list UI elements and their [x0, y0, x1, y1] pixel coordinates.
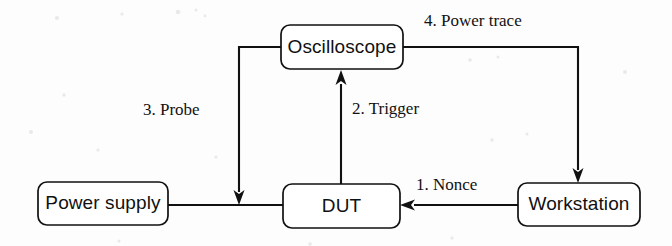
setup-diagram: Oscilloscope Power supply DUT Workstatio…	[0, 0, 672, 246]
edge-label-trigger: 2. Trigger	[352, 99, 419, 118]
edge-power-trace	[403, 47, 584, 183]
node-oscilloscope[interactable]: Oscilloscope	[281, 25, 403, 69]
arrowhead-probe	[234, 190, 245, 205]
workstation-label: Workstation	[528, 193, 629, 214]
edge-probe	[234, 47, 282, 205]
node-power-supply[interactable]: Power supply	[38, 182, 168, 225]
arrowhead-nonce	[400, 200, 415, 211]
node-dut[interactable]: DUT	[283, 184, 400, 228]
power-supply-label: Power supply	[45, 192, 161, 213]
oscilloscope-label: Oscilloscope	[288, 36, 397, 57]
edge-nonce	[400, 200, 518, 211]
edge-trigger	[336, 70, 347, 184]
dut-label: DUT	[322, 195, 362, 216]
arrowhead-power-trace	[573, 168, 584, 183]
edge-label-power-trace: 4. Power trace	[424, 11, 522, 30]
edge-label-nonce: 1. Nonce	[416, 175, 477, 194]
diagram-canvas: Oscilloscope Power supply DUT Workstatio…	[0, 0, 672, 246]
edge-label-probe: 3. Probe	[143, 100, 200, 119]
node-workstation[interactable]: Workstation	[518, 183, 640, 226]
arrowhead-trigger	[336, 70, 347, 85]
